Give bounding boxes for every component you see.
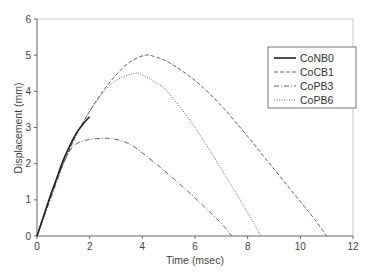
- y-axis-ticks: 0123456: [25, 14, 37, 242]
- y-tick-label: 0: [25, 231, 31, 242]
- x-axis-ticks: 024681012: [34, 236, 359, 252]
- x-tick-label: 4: [140, 241, 146, 252]
- y-tick-label: 4: [25, 86, 31, 97]
- legend-label-copb3: CoPB3: [300, 80, 333, 92]
- x-tick-label: 6: [192, 241, 198, 252]
- legend-label-conb0: CoNB0: [300, 52, 334, 64]
- y-axis-title: Displacement (mm): [12, 82, 24, 173]
- y-tick-label: 3: [25, 122, 31, 133]
- series-copb6: [37, 73, 261, 236]
- line-chart: 024681012 0123456 Time (msec) Displaceme…: [0, 0, 371, 279]
- y-tick-label: 6: [25, 14, 31, 25]
- x-axis-title: Time (msec): [166, 254, 224, 266]
- y-tick-label: 1: [25, 194, 31, 205]
- x-tick-label: 10: [295, 241, 307, 252]
- legend-label-copb6: CoPB6: [300, 94, 333, 106]
- y-tick-label: 2: [25, 158, 31, 169]
- legend: CoNB0CoCB1CoPB3CoPB6: [268, 47, 356, 108]
- x-tick-label: 8: [245, 241, 251, 252]
- series-conb0: [37, 117, 90, 236]
- legend-label-cocb1: CoCB1: [300, 66, 334, 78]
- x-tick-label: 0: [34, 241, 40, 252]
- x-tick-label: 12: [347, 241, 359, 252]
- x-tick-label: 2: [87, 241, 93, 252]
- y-tick-label: 5: [25, 50, 31, 61]
